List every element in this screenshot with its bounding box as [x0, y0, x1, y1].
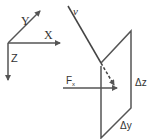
y-axis-label: Y	[21, 14, 30, 28]
dashed-arrow	[101, 63, 114, 85]
velocity-vector: v	[68, 5, 114, 85]
velocity-label: v	[73, 5, 78, 17]
coordinate-axes: X Y Z	[8, 11, 60, 80]
force-label: Fx	[66, 75, 75, 87]
diagram-canvas: X Y Z v Δz Δy Fx	[0, 0, 149, 139]
delta-z-label: Δz	[135, 77, 147, 88]
x-axis-label: X	[44, 28, 53, 42]
delta-y-label: Δy	[120, 120, 132, 131]
z-axis-label: Z	[11, 52, 18, 64]
surface-plane: Δz Δy	[101, 31, 147, 138]
